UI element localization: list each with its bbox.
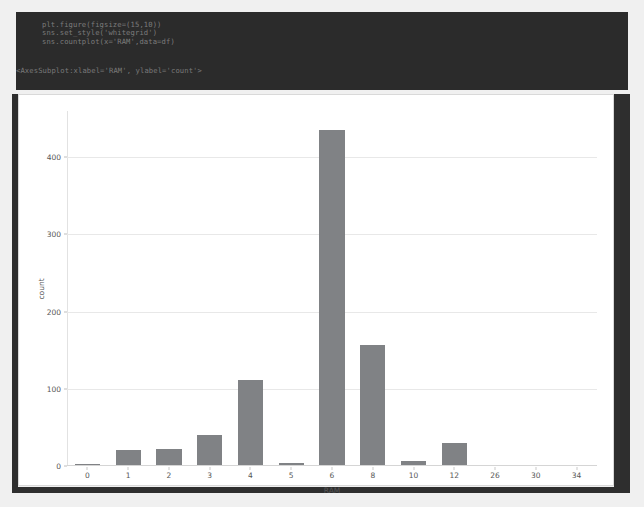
bar [238, 380, 263, 466]
x-tick-mark [332, 467, 333, 470]
bar [442, 443, 467, 466]
y-tick-mark [64, 311, 67, 312]
x-tick-label: 30 [531, 471, 541, 480]
axis-spine-left [67, 111, 68, 466]
y-tick-label: 300 [47, 230, 61, 239]
matplotlib-figure: 0100200300400 012345681012263034 count R… [18, 94, 614, 486]
x-tick-mark [291, 467, 292, 470]
x-tick-mark [454, 467, 455, 470]
x-tick-mark [413, 467, 414, 470]
x-tick-mark [535, 467, 536, 470]
chart-axes: 0100200300400 012345681012263034 count R… [67, 111, 597, 466]
y-tick-label: 100 [47, 384, 61, 393]
y-tick-mark [64, 388, 67, 389]
code-cell-source[interactable]: plt.figure(figsize=(15,10)) sns.set_styl… [42, 21, 602, 46]
x-tick-mark [209, 467, 210, 470]
x-tick-label: 2 [167, 471, 172, 480]
x-tick-mark [250, 467, 251, 470]
x-tick-mark [128, 467, 129, 470]
bar [156, 449, 181, 466]
x-tick-label: 1 [126, 471, 131, 480]
x-tick-label: 3 [207, 471, 212, 480]
code-line: sns.countplot(x='RAM',data=df) [42, 38, 602, 46]
axis-baseline [67, 465, 597, 466]
x-tick-label: 26 [490, 471, 500, 480]
y-axis-label: count [37, 278, 46, 299]
y-tick-label: 200 [47, 307, 61, 316]
y-tick-mark [64, 234, 67, 235]
x-tick-mark [495, 467, 496, 470]
x-tick-label: 5 [289, 471, 294, 480]
x-tick-label: 12 [450, 471, 460, 480]
x-tick-label: 34 [572, 471, 582, 480]
x-tick-label: 10 [409, 471, 419, 480]
x-tick-label: 4 [248, 471, 253, 480]
y-tick-label: 400 [47, 153, 61, 162]
x-tick-mark [576, 467, 577, 470]
x-tick-mark [168, 467, 169, 470]
y-tick-mark [64, 157, 67, 158]
bar [360, 345, 385, 466]
bar [319, 130, 344, 466]
bar [197, 435, 222, 466]
x-tick-label: 0 [85, 471, 90, 480]
bar [116, 450, 141, 466]
x-tick-label: 8 [370, 471, 375, 480]
cell-output-repr: <AxesSubplot:xlabel='RAM', ylabel='count… [16, 66, 202, 75]
code-cell[interactable]: plt.figure(figsize=(15,10)) sns.set_styl… [16, 12, 628, 90]
x-tick-label: 6 [330, 471, 335, 480]
x-tick-mark [87, 467, 88, 470]
x-tick-mark [372, 467, 373, 470]
figure-frame-right [614, 94, 630, 493]
y-tick-label: 0 [56, 462, 61, 471]
notebook-page: plt.figure(figsize=(15,10)) sns.set_styl… [0, 0, 644, 507]
x-axis-label: RAM [67, 486, 597, 495]
